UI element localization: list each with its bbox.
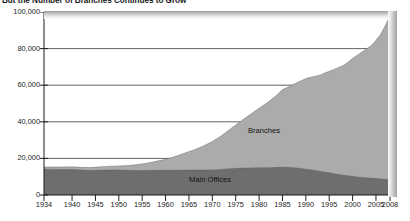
x-axis-tick-label: 1970	[204, 200, 220, 209]
x-axis-tick-label: 1995	[321, 200, 337, 209]
x-axis-tick-label: 1965	[181, 200, 197, 209]
x-axis-tick-label: 2008	[382, 200, 398, 209]
x-axis-tick-label: 1985	[274, 200, 290, 209]
chart-figure: But the Number of Branches Continues to …	[0, 0, 410, 221]
x-axis-tick-label: 2000	[344, 200, 360, 209]
x-axis-tick-label: 1980	[251, 200, 267, 209]
branches-label: Branches	[248, 126, 280, 135]
main-offices-label: Main Offices	[189, 175, 231, 184]
x-axis-tick-label: 1940	[64, 200, 80, 209]
x-axis-tick-label: 1934	[36, 200, 52, 209]
x-axis-tick-label: 1960	[157, 200, 173, 209]
x-axis-tick-label: 1990	[298, 200, 314, 209]
x-axis-tick-label: 1950	[111, 200, 127, 209]
x-axis-labels: 1934194019451950195519601965197019751980…	[0, 0, 410, 221]
x-axis-tick-label: 1945	[87, 200, 103, 209]
x-axis-tick-label: 1955	[134, 200, 150, 209]
x-axis-tick-label: 1975	[227, 200, 243, 209]
